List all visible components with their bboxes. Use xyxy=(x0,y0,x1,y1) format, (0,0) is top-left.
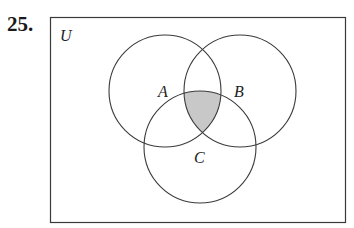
venn-diagram: U A B C xyxy=(0,0,354,228)
set-b-label: B xyxy=(234,83,244,100)
set-c-label: C xyxy=(194,149,205,166)
set-a-label: A xyxy=(157,83,168,100)
universe-label: U xyxy=(60,27,73,44)
